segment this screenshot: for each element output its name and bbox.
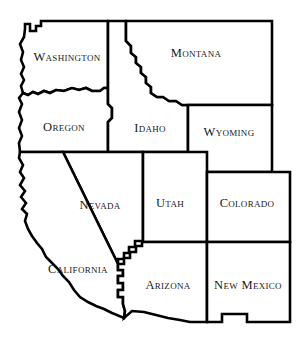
western-us-map: WashingtonOregonIdahoMontanaWyomingNevad…	[0, 0, 306, 356]
state-label-arizona: Arizona	[145, 279, 190, 292]
state-label-idaho: Idaho	[134, 122, 166, 135]
state-label-new-mexico: New Mexico	[214, 279, 282, 292]
state-label-utah: Utah	[156, 197, 184, 210]
state-label-nevada: Nevada	[79, 199, 120, 212]
state-label-oregon: Oregon	[43, 121, 85, 134]
state-label-wyoming: Wyoming	[204, 126, 255, 139]
state-label-montana: Montana	[171, 47, 222, 60]
state-label-colorado: Colorado	[220, 197, 275, 210]
state-label-california: California	[48, 263, 108, 276]
state-label-washington: Washington	[33, 51, 100, 64]
